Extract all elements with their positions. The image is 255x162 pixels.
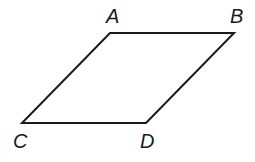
parallelogram-shape [22,33,234,123]
vertex-label-d: D [140,130,154,152]
vertex-label-a: A [105,5,119,27]
vertex-label-c: C [13,130,28,152]
parallelogram-diagram: A B C D [0,0,255,162]
vertex-label-b: B [230,5,243,27]
